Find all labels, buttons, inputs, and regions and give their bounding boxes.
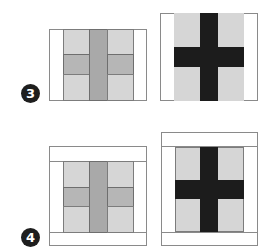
- step4-left-panel-bottom-left: [63, 206, 90, 233]
- step3-left-center-strip: [89, 29, 108, 101]
- step4-left-panel-top-right: [107, 161, 134, 188]
- step3-left-panel-top-left: [63, 29, 90, 55]
- step3-left-panel-bottom-right: [107, 74, 134, 101]
- step3-right-cross-horizontal: [174, 47, 244, 67]
- step4-left-bar-right: [107, 187, 134, 207]
- step-badge-4: 4: [21, 228, 40, 247]
- step4-right-cross-horizontal: [175, 180, 244, 199]
- step3-left-panel-top-right: [107, 29, 134, 55]
- step4-left-center-strip: [89, 161, 108, 233]
- step3-left-panel-bottom-left: [63, 74, 90, 101]
- step4-left-panel-top-left: [63, 161, 90, 188]
- step4-right-bottom-border-line: [161, 232, 258, 233]
- step4-left-bar-left: [63, 187, 90, 207]
- step3-left-bar-left: [63, 54, 90, 75]
- step4-left-panel-bottom-right: [107, 206, 134, 233]
- step-badge-3: 3: [21, 84, 40, 103]
- step3-left-bar-right: [107, 54, 134, 75]
